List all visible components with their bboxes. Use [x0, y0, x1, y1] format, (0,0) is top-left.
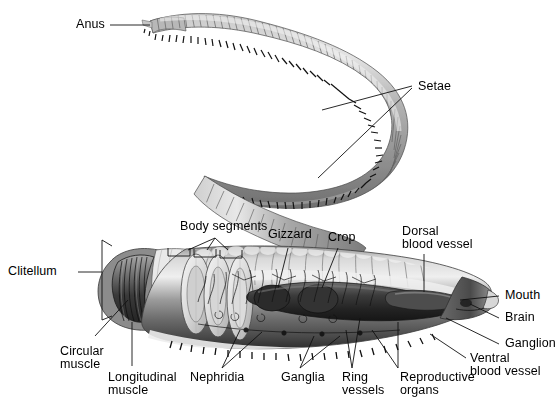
label-crop: Crop	[328, 231, 356, 245]
segment-cross-sections	[181, 254, 253, 340]
label-ganglion: Ganglion	[505, 337, 556, 351]
label-mouth: Mouth	[505, 289, 540, 303]
worm-cutaway-body	[142, 245, 492, 361]
label-ganglia: Ganglia	[281, 371, 325, 385]
label-nephridia: Nephridia	[190, 371, 244, 385]
label-circular-muscle-line2: muscle	[60, 358, 100, 372]
label-anus: Anus	[76, 18, 105, 32]
label-clitellum: Clitellum	[8, 265, 57, 279]
label-setae: Setae	[418, 80, 451, 94]
label-body-segments: Body segments	[180, 220, 267, 234]
label-brain: Brain	[505, 311, 535, 325]
label-ventral-blood-vessel-line2: blood vessel	[470, 365, 541, 379]
label-ring-vessels-line2: vessels	[342, 384, 384, 398]
worm-tail-body	[142, 14, 408, 214]
label-longitudinal-muscle-line2: muscle	[108, 384, 148, 398]
label-dorsal-blood-vessel-line2: blood vessel	[402, 238, 473, 252]
label-gizzard: Gizzard	[268, 228, 312, 242]
label-reproductive-organs-line2: organs	[400, 384, 439, 398]
